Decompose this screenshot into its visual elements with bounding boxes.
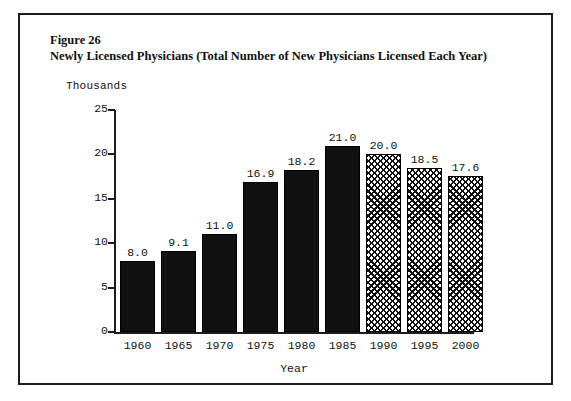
x-axis-tick-label: 1995 [404, 339, 445, 352]
x-axis-tick-label: 2000 [445, 339, 486, 352]
bar-slot: 21.0 [322, 110, 363, 332]
bar-value-label: 16.9 [240, 167, 281, 180]
bar[interactable] [366, 154, 401, 332]
x-axis-tick-label: 1965 [158, 339, 199, 352]
x-axis-tick-label: 1990 [363, 339, 404, 352]
bar-slot: 18.2 [281, 110, 322, 332]
bar-slot: 17.6 [445, 110, 486, 332]
bar[interactable] [161, 251, 196, 332]
bar-value-label: 18.2 [281, 155, 322, 168]
x-axis-tick-label: 1985 [322, 339, 363, 352]
y-axis-tick-mark [108, 109, 115, 111]
x-axis-tick-label: 1960 [117, 339, 158, 352]
bar-slot: 20.0 [363, 110, 404, 332]
x-axis-tick-label: 1975 [240, 339, 281, 352]
y-axis-tick-mark [108, 242, 115, 244]
y-axis-tick-label: 5 [68, 280, 108, 293]
bar-slot: 18.5 [404, 110, 445, 332]
x-axis-line [114, 332, 474, 334]
bar-value-label: 9.1 [158, 236, 199, 249]
y-axis-tick-mark [108, 198, 115, 200]
bar-slot: 11.0 [199, 110, 240, 332]
bar[interactable] [120, 261, 155, 332]
bar-value-label: 21.0 [322, 131, 363, 144]
bar[interactable] [284, 170, 319, 332]
x-axis-tick-label: 1980 [281, 339, 322, 352]
bar-value-label: 20.0 [363, 139, 404, 152]
bar-slot: 8.0 [117, 110, 158, 332]
bar[interactable] [243, 182, 278, 332]
y-axis-tick-mark [108, 153, 115, 155]
bar[interactable] [202, 234, 237, 332]
bar[interactable] [407, 168, 442, 332]
bar-value-label: 17.6 [445, 161, 486, 174]
y-axis-tick-mark [108, 287, 115, 289]
bar-slot: 16.9 [240, 110, 281, 332]
y-axis-tick-label: 0 [68, 324, 108, 337]
bar[interactable] [448, 176, 483, 332]
y-axis-tick-label: 10 [68, 235, 108, 248]
y-axis-tick-label: 20 [68, 146, 108, 159]
bar-chart-plot-area: Thousands 0510152025 8.09.111.016.918.22… [0, 0, 571, 401]
bar[interactable] [325, 146, 360, 332]
y-axis-tick-mark [108, 331, 115, 333]
y-axis-tick-label: 15 [68, 191, 108, 204]
y-axis-units-label: Thousands [66, 80, 127, 92]
bar-value-label: 11.0 [199, 219, 240, 232]
x-axis-tick-label: 1970 [199, 339, 240, 352]
bar-value-label: 8.0 [117, 246, 158, 259]
bar-slot: 9.1 [158, 110, 199, 332]
y-axis-tick-label: 25 [68, 102, 108, 115]
y-axis-line [114, 110, 116, 334]
bar-value-label: 18.5 [404, 153, 445, 166]
x-axis-title: Year [114, 362, 474, 375]
